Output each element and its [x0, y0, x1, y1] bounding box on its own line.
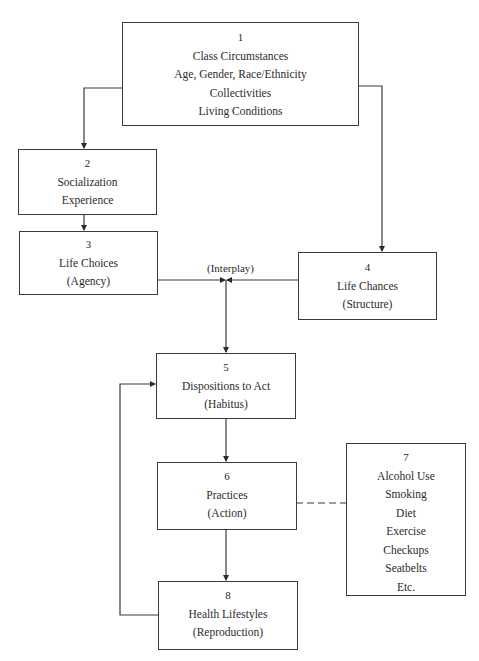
box-4-line-1: Life Chances	[337, 277, 398, 296]
box-6-line-2: (Action)	[208, 504, 247, 523]
box-1-line-3: Collectivities	[210, 84, 271, 103]
box-8-line-1: Health Lifestyles	[189, 605, 268, 624]
box-7-line-4: Exercise	[386, 522, 426, 541]
box-7-line-2: Smoking	[385, 485, 427, 504]
box-6-practices: 6 Practices (Action)	[157, 462, 297, 530]
box-3-life-choices: 3 Life Choices (Agency)	[19, 231, 158, 295]
box-7-line-3: Diet	[396, 504, 416, 523]
box-2-number: 2	[85, 154, 91, 173]
box-2-line-2: Experience	[62, 191, 114, 210]
box-3-number: 3	[86, 235, 92, 254]
edge-1-to-4	[358, 86, 382, 251]
box-5-number: 5	[223, 358, 229, 377]
box-7-line-1: Alcohol Use	[377, 467, 435, 486]
box-3-line-1: Life Choices	[59, 254, 118, 273]
box-6-line-1: Practices	[206, 486, 248, 505]
box-1-line-1: Class Circumstances	[193, 47, 289, 66]
box-5-dispositions: 5 Dispositions to Act (Habitus)	[156, 353, 296, 419]
box-8-number: 8	[225, 586, 231, 605]
box-1-line-2: Age, Gender, Race/Ethnicity	[174, 65, 306, 84]
edge-1-to-2	[84, 88, 122, 148]
box-7-line-7: Etc.	[397, 578, 415, 597]
box-7-health-behaviors: 7 Alcohol Use Smoking Diet Exercise Chec…	[346, 443, 466, 596]
box-8-health-lifestyles: 8 Health Lifestyles (Reproduction)	[158, 581, 298, 650]
edge-8-to-5	[120, 384, 158, 615]
box-7-number: 7	[403, 448, 409, 467]
box-4-line-2: (Structure)	[343, 295, 393, 314]
box-3-line-2: (Agency)	[67, 272, 110, 291]
box-1-class-circumstances: 1 Class Circumstances Age, Gender, Race/…	[122, 22, 359, 126]
box-2-line-1: Socialization	[57, 173, 117, 192]
box-5-line-2: (Habitus)	[204, 395, 247, 414]
interplay-label: (Interplay)	[207, 262, 254, 274]
box-7-line-5: Checkups	[383, 541, 428, 560]
box-4-life-chances: 4 Life Chances (Structure)	[298, 252, 437, 320]
box-2-socialization: 2 Socialization Experience	[18, 149, 157, 215]
box-5-line-1: Dispositions to Act	[182, 377, 270, 396]
box-4-number: 4	[365, 258, 371, 277]
box-7-line-6: Seatbelts	[385, 559, 427, 578]
box-6-number: 6	[224, 467, 230, 486]
box-8-line-2: (Reproduction)	[193, 623, 263, 642]
box-1-number: 1	[238, 28, 244, 47]
box-1-line-4: Living Conditions	[198, 102, 282, 121]
